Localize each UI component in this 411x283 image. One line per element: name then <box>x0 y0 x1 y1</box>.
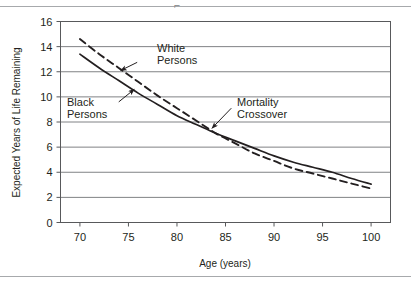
line-chart <box>0 0 411 283</box>
y-tick-label-6: 6 <box>31 141 53 153</box>
y-tick-label-14: 14 <box>31 41 53 53</box>
y-tick-label-4: 4 <box>31 166 53 178</box>
y-tick-label-0: 0 <box>31 217 53 229</box>
x-tick-label-100: 100 <box>354 231 388 243</box>
x-tick-label-85: 85 <box>209 231 243 243</box>
annotation-black-persons: Black Persons <box>67 96 107 120</box>
arrow-white-persons <box>121 62 138 70</box>
y-tick-label-8: 8 <box>31 116 53 128</box>
y-tick-label-12: 12 <box>31 66 53 78</box>
figure-container: ⌐ Expected Years of Life Remaining Age (… <box>0 0 411 283</box>
x-tick-label-75: 75 <box>111 231 145 243</box>
x-axis-title: Age (years) <box>60 258 390 269</box>
bottom-divider-rule <box>0 276 411 277</box>
x-tick-label-70: 70 <box>63 231 97 243</box>
arrow-mortality-crossover <box>212 108 231 128</box>
x-tick-label-95: 95 <box>306 231 340 243</box>
y-tick-label-10: 10 <box>31 91 53 103</box>
x-tick-label-80: 80 <box>160 231 194 243</box>
y-axis-title: Expected Years of Life Remaining <box>11 23 22 223</box>
tickmarks-group <box>57 22 372 227</box>
y-tick-label-16: 16 <box>31 16 53 28</box>
arrow-black-persons <box>119 89 135 102</box>
annotation-mortality-crossover: Mortality Crossover <box>237 96 287 120</box>
y-tick-label-2: 2 <box>31 191 53 203</box>
x-tick-label-90: 90 <box>257 231 291 243</box>
series-line-black-persons <box>80 54 371 184</box>
gridlines-group <box>61 22 391 198</box>
annotation-white-persons: White Persons <box>157 42 197 66</box>
